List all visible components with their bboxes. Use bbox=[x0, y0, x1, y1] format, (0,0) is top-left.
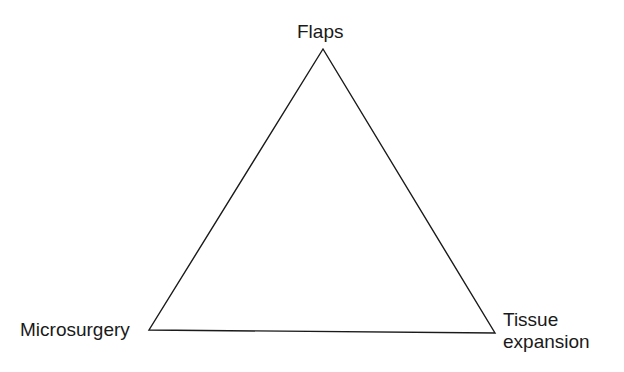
vertex-label-tissue-line1: Tissue bbox=[503, 309, 590, 331]
triangle-shape bbox=[149, 49, 495, 333]
vertex-label-flaps: Flaps bbox=[297, 21, 343, 43]
vertex-label-microsurgery: Microsurgery bbox=[20, 319, 130, 341]
vertex-label-tissue-line2: expansion bbox=[503, 331, 590, 353]
vertex-label-tissue-expansion: Tissue expansion bbox=[503, 309, 590, 353]
diagram-canvas: Flaps Microsurgery Tissue expansion bbox=[0, 0, 624, 372]
